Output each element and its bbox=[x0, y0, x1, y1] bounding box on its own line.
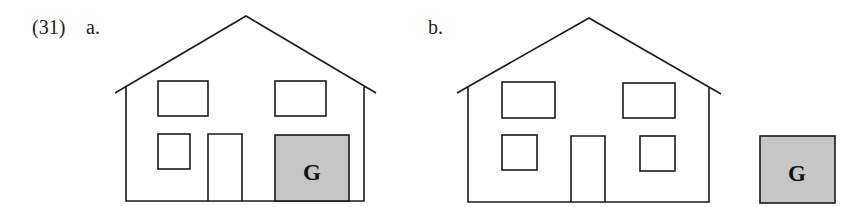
house-b bbox=[457, 18, 721, 202]
house-a-window-lower-left bbox=[158, 134, 190, 169]
house-b-walls bbox=[468, 87, 709, 202]
house-b-roof bbox=[457, 18, 721, 94]
garage-b-letter: G bbox=[788, 161, 806, 186]
garage-a-letter: G bbox=[303, 160, 321, 185]
house-a bbox=[115, 16, 376, 201]
house-a-roof bbox=[115, 16, 376, 93]
house-a-door bbox=[208, 134, 242, 201]
house-a-window-upper-right bbox=[275, 81, 326, 116]
house-a-window-upper-left bbox=[158, 81, 208, 116]
house-b-window-lower-right bbox=[640, 136, 675, 171]
house-b-window-upper-left bbox=[502, 82, 555, 118]
house-b-window-lower-left bbox=[502, 135, 537, 170]
house-b-door bbox=[571, 136, 605, 202]
house-diagrams: G G bbox=[0, 0, 864, 207]
house-b-window-upper-right bbox=[623, 83, 675, 118]
